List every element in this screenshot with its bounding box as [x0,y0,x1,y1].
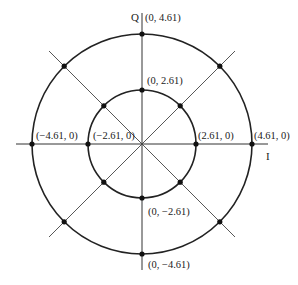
i-axis-label: I [266,150,270,162]
constellation-diagram: Q I (0, 4.61) (4.61, 0) (0, −4.61) (−4.6… [0,0,298,285]
point-label-outer-right: (4.61, 0) [254,130,290,142]
point-label-outer-left: (−4.61, 0) [36,130,78,142]
point-label-inner-bottom: (0, −2.61) [148,206,190,218]
point-label-outer-top: (0, 4.61) [145,12,181,24]
point-label-inner-top: (0, 2.61) [147,75,183,87]
point-label-inner-left: (−2.61, 0) [93,130,135,142]
point-label-inner-right: (2.61, 0) [198,130,234,142]
q-axis-label: Q [131,11,139,23]
point-label-outer-bottom: (0, −4.61) [148,259,190,271]
